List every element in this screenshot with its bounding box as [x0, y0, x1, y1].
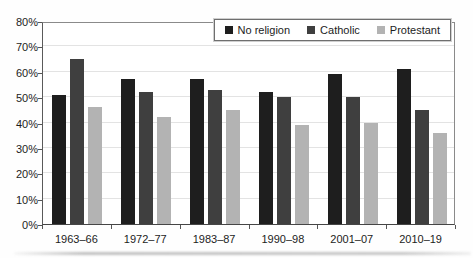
x-axis-tick-label: 1990–98 — [249, 233, 318, 245]
x-axis-tickmark — [455, 225, 456, 229]
x-axis-tickmark — [42, 225, 43, 229]
bar — [139, 92, 153, 224]
bar — [226, 110, 240, 224]
bar — [121, 79, 135, 224]
y-axis-tickmark — [38, 149, 42, 150]
gridline — [43, 172, 454, 173]
x-axis-tickmark — [111, 225, 112, 229]
gridline — [43, 147, 454, 148]
x-axis-tick-label: 1972–77 — [111, 233, 180, 245]
bar — [397, 69, 411, 224]
bar — [52, 95, 66, 224]
x-axis-tick-label: 1963–66 — [42, 233, 111, 245]
bar — [88, 107, 102, 224]
bar — [157, 117, 171, 224]
x-axis-tickmark — [386, 225, 387, 229]
gridline — [43, 71, 454, 72]
y-axis-tickmark — [38, 124, 42, 125]
legend-swatch — [307, 26, 315, 34]
bar — [346, 97, 360, 224]
bar — [295, 125, 309, 224]
y-axis-tick-label: 10% — [2, 194, 38, 206]
legend-item-label: Protestant — [390, 24, 440, 36]
x-axis-tickmark — [180, 225, 181, 229]
y-axis-tick-label: 30% — [2, 143, 38, 155]
y-axis-tick-label: 20% — [2, 168, 38, 180]
y-axis-tick-label: 0% — [2, 219, 38, 231]
y-axis-tickmark — [38, 47, 42, 48]
y-axis-tick-label: 50% — [2, 92, 38, 104]
bar — [433, 133, 447, 224]
legend-item-label: No religion — [238, 24, 291, 36]
chart-legend: No religionCatholicProtestant — [214, 19, 451, 41]
legend-item: Catholic — [307, 24, 360, 36]
x-axis-tick-label: 2010–19 — [386, 233, 455, 245]
y-axis-tickmark — [38, 22, 42, 23]
gridline — [43, 45, 454, 46]
legend-item: Protestant — [377, 24, 440, 36]
legend-item-label: Catholic — [320, 24, 360, 36]
bar — [70, 59, 84, 224]
bar — [190, 79, 204, 224]
bar — [328, 74, 342, 224]
y-axis-tickmark — [38, 73, 42, 74]
chart-plot-area — [42, 22, 455, 225]
gridline — [43, 198, 454, 199]
legend-swatch — [225, 26, 233, 34]
y-axis-tickmark — [38, 98, 42, 99]
bar — [364, 123, 378, 225]
x-axis-tickmark — [249, 225, 250, 229]
figure-canvas: No religionCatholicProtestant 0%10%20%30… — [0, 0, 473, 258]
y-axis-tickmark — [38, 200, 42, 201]
y-axis-tickmark — [38, 174, 42, 175]
x-axis-tickmark — [317, 225, 318, 229]
bar — [259, 92, 273, 224]
legend-item: No religion — [225, 24, 291, 36]
y-axis-tick-label: 60% — [2, 67, 38, 79]
y-axis-tick-label: 40% — [2, 118, 38, 130]
legend-swatch — [377, 26, 385, 34]
gridline — [43, 96, 454, 97]
y-axis-tick-label: 80% — [2, 16, 38, 28]
y-axis-tick-label: 70% — [2, 41, 38, 53]
x-axis-tick-label: 1983–87 — [180, 233, 249, 245]
gridline — [43, 122, 454, 123]
bar — [277, 97, 291, 224]
page-scan-shadow — [14, 252, 471, 255]
bar — [208, 90, 222, 224]
bar — [415, 110, 429, 224]
x-axis-tick-label: 2001–07 — [317, 233, 386, 245]
